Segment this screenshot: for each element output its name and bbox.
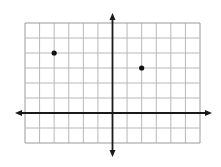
arrow-right-icon <box>205 110 212 116</box>
arrow-left-icon <box>15 110 22 116</box>
axes <box>15 13 212 157</box>
arrow-down-icon <box>110 150 116 157</box>
coordinate-plane <box>0 0 221 167</box>
point-a <box>52 50 57 55</box>
arrow-up-icon <box>110 13 116 20</box>
coordinate-plane-svg <box>0 0 221 167</box>
point-b <box>139 65 144 70</box>
